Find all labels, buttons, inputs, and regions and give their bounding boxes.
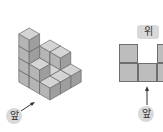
top-view-label: 위: [137, 25, 159, 39]
top-view-cell: [138, 63, 157, 82]
top-view-cell: [119, 63, 138, 82]
front-arrow-right: [144, 86, 150, 106]
top-view-cell: [119, 44, 138, 63]
top-view-grid: [119, 44, 163, 84]
top-view-cell: [157, 44, 163, 63]
front-arrow-left: [20, 100, 36, 112]
front-label-right: 앞: [138, 106, 154, 122]
top-view-cell: [157, 63, 163, 82]
